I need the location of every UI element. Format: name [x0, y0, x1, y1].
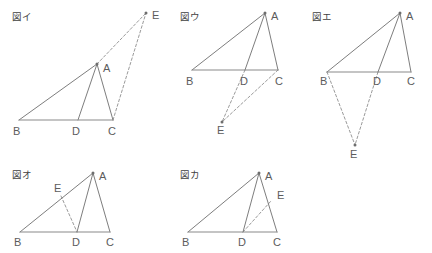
dashed-edge-AE [97, 13, 146, 64]
vertex-label-b: B [182, 236, 189, 248]
vertex-label-c: C [106, 236, 114, 248]
vertex-label-c: C [275, 75, 283, 87]
solid-edge-AD [245, 13, 265, 70]
vertex-label-a: A [271, 10, 279, 22]
vertex-label-b: B [320, 75, 327, 87]
vertex-label-d: D [72, 125, 80, 137]
figure-panel-panel-i: 図イABCDE [12, 9, 159, 137]
vertex-dot-a [264, 12, 267, 15]
panel-caption: 図ウ [180, 11, 200, 22]
vertex-label-e: E [350, 148, 357, 160]
vertex-label-e: E [277, 189, 284, 201]
vertex-dot-e [354, 144, 357, 147]
vertex-dot-a [96, 63, 99, 66]
vertex-label-a: A [99, 170, 107, 182]
vertex-label-b: B [13, 125, 20, 137]
geometry-diagram-svg: 図イABCDE図ウABCDE図エABCDE図オABCDE図カABCDE [0, 0, 432, 253]
vertex-dot-a [399, 12, 402, 15]
vertex-label-a: A [406, 10, 414, 22]
figure-panel-panel-e: 図エABCDE [312, 10, 415, 160]
vertex-label-e: E [152, 9, 159, 21]
vertex-dot-e [145, 12, 148, 15]
vertex-label-b: B [186, 75, 193, 87]
vertex-dot-a [258, 172, 261, 175]
vertex-label-c: C [407, 75, 415, 87]
figure-panel-panel-u: 図ウABCDE [180, 10, 283, 136]
panel-caption: 図カ [180, 169, 200, 180]
figure-panel-panel-ka: 図カABCDE [180, 169, 284, 248]
dashed-edge-CE [222, 70, 278, 122]
figure-panel-panel-o: 図オABCDE [12, 169, 114, 248]
dashed-edge-CE [113, 13, 146, 120]
vertex-label-d: D [373, 75, 381, 87]
solid-edge-AD [77, 173, 93, 232]
vertex-dot-a [92, 172, 95, 175]
solid-edge-BA [19, 64, 97, 120]
solid-edge-BA [188, 173, 259, 232]
vertex-label-b: B [14, 236, 21, 248]
solid-edge-BA [192, 13, 265, 70]
figure-board: 図イABCDE図ウABCDE図エABCDE図オABCDE図カABCDE [0, 0, 432, 253]
vertex-label-e: E [217, 124, 224, 136]
solid-edge-AD [78, 64, 97, 120]
vertex-label-e: E [54, 182, 61, 194]
vertex-label-a: A [265, 170, 273, 182]
panel-caption: 図エ [312, 11, 332, 22]
vertex-label-c: C [108, 125, 116, 137]
panel-caption: 図オ [12, 169, 32, 180]
panel-caption: 図イ [12, 11, 32, 22]
vertex-label-d: D [72, 236, 80, 248]
vertex-label-d: D [240, 75, 248, 87]
vertex-label-d: D [238, 236, 246, 248]
dashed-edge-ED [61, 196, 77, 232]
vertex-label-c: C [273, 236, 281, 248]
vertex-label-a: A [103, 62, 111, 74]
dashed-edge-BE [327, 72, 355, 145]
